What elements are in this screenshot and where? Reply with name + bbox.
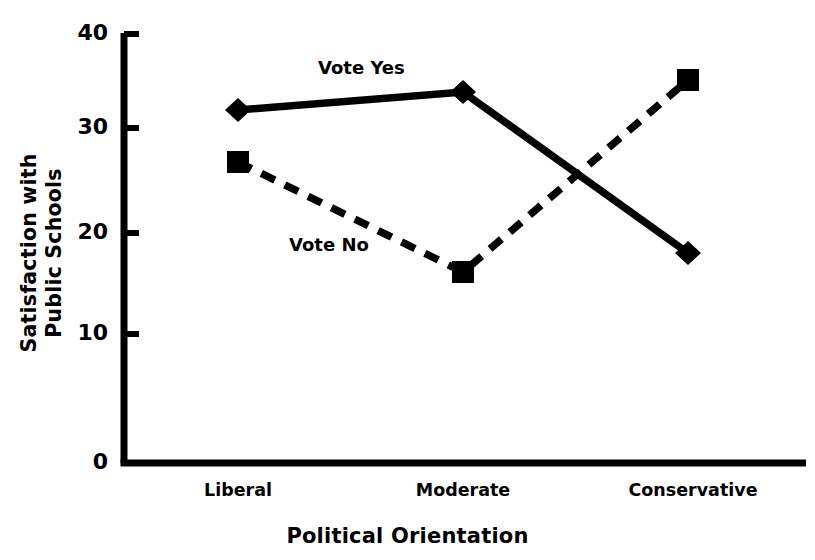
y-tick-label-0: 0 <box>20 449 108 474</box>
x-category-label-moderate: Moderate <box>383 480 543 500</box>
chart-container: 40 30 20 10 0 Satisfaction with Public S… <box>0 0 815 560</box>
series-annotation-vote-no: Vote No <box>289 234 369 255</box>
marker-vote-yes-liberal <box>225 98 251 122</box>
x-axis-title: Political Orientation <box>0 524 815 548</box>
marker-vote-no-liberal <box>227 151 249 173</box>
y-tick-label-40: 40 <box>20 20 108 45</box>
y-axis-title-line1: Satisfaction with <box>17 154 41 353</box>
x-category-label-liberal: Liberal <box>158 480 318 500</box>
marker-vote-no-conservative <box>677 69 699 91</box>
plot-area <box>0 0 815 560</box>
marker-vote-no-moderate <box>452 261 474 283</box>
x-category-label-conservative: Conservative <box>608 480 778 500</box>
series-annotation-vote-yes: Vote Yes <box>318 57 405 78</box>
series-line-vote-yes <box>238 92 688 253</box>
y-axis-title: Satisfaction with Public Schools <box>17 103 67 403</box>
y-axis-title-line2: Public Schools <box>42 103 67 403</box>
